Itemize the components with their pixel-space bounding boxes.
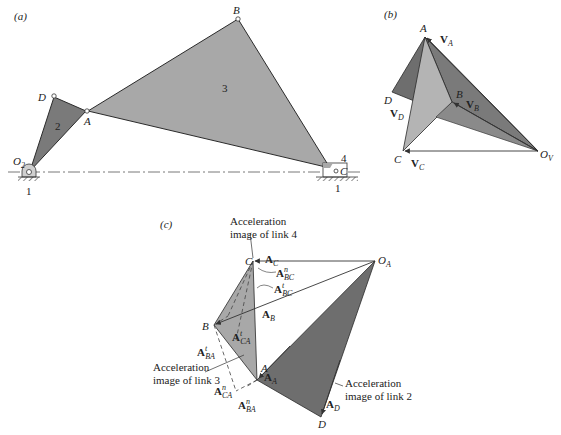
vector-anba-label: AnBA bbox=[238, 397, 256, 414]
panel-b-label: (b) bbox=[384, 8, 397, 21]
caption-link-3-line2: image of link 3 bbox=[153, 374, 220, 386]
caption-link-2-line2: image of link 2 bbox=[345, 390, 412, 402]
joint-c bbox=[334, 169, 338, 173]
ground-hatch-right bbox=[316, 177, 358, 181]
vector-ac-label: AC bbox=[265, 253, 279, 268]
point-b-label: B bbox=[233, 4, 240, 16]
vector-ad-label: AD bbox=[326, 398, 340, 413]
point-a-label: A bbox=[83, 115, 91, 127]
panel-b: (b) A D B C OV VA VB VC VD bbox=[383, 8, 554, 172]
vector-atbc-label: AtBC bbox=[274, 281, 293, 298]
link-3-number: 3 bbox=[222, 82, 228, 94]
joint-d bbox=[52, 94, 56, 98]
link-2-shape bbox=[30, 97, 86, 171]
vector-anbc-label: AnBC bbox=[276, 265, 295, 282]
point-oa-label: OA bbox=[378, 254, 391, 269]
point-o2-label: O2 bbox=[13, 155, 25, 170]
point-d-label-b: D bbox=[383, 94, 392, 106]
vector-vc-label: VC bbox=[411, 157, 425, 172]
joint-b bbox=[236, 17, 240, 21]
vector-va-label: VA bbox=[440, 33, 453, 48]
link-3-shape bbox=[88, 19, 330, 168]
point-c-label: C bbox=[340, 165, 348, 177]
link-2-number: 2 bbox=[55, 120, 61, 132]
link-4-number: 4 bbox=[341, 152, 347, 164]
caption-link-4-line1: Acceleration bbox=[230, 215, 287, 227]
leader-anbc bbox=[258, 268, 276, 273]
mechanism-diagram: (a) B D A C O2 3 2 4 1 1 (b) bbox=[0, 0, 561, 435]
link-1-left-number: 1 bbox=[26, 185, 32, 197]
point-a-label-b: A bbox=[419, 22, 427, 34]
leader-link-2 bbox=[335, 383, 343, 386]
link-1-right-number: 1 bbox=[335, 182, 341, 194]
point-ov-label: OV bbox=[540, 148, 554, 163]
caption-link-3-line1: Acceleration bbox=[153, 361, 210, 373]
panel-c-label: (c) bbox=[160, 218, 173, 231]
point-d-label: D bbox=[37, 91, 46, 103]
panel-a: (a) B D A C O2 3 2 4 1 1 bbox=[8, 4, 360, 197]
point-c-label-b: C bbox=[394, 153, 402, 165]
point-b-label-c: B bbox=[202, 320, 209, 332]
vector-ab-label: AB bbox=[262, 308, 275, 323]
panel-a-label: (a) bbox=[14, 10, 27, 23]
point-c-label-c: C bbox=[245, 255, 253, 267]
point-d-label-c: D bbox=[317, 418, 326, 430]
point-b-label-b: B bbox=[456, 88, 463, 100]
vector-atba-label: AtBA bbox=[197, 344, 215, 361]
panel-c: (c) C B A D OA AC AnBC bbox=[153, 215, 412, 430]
joint-a bbox=[85, 109, 89, 113]
caption-link-4-line2: image of link 4 bbox=[230, 228, 297, 240]
leader-atbc bbox=[257, 285, 273, 288]
ground-hatch-left bbox=[18, 177, 40, 181]
vector-vd-label: VD bbox=[390, 107, 404, 122]
caption-link-2-line1: Acceleration bbox=[345, 377, 402, 389]
